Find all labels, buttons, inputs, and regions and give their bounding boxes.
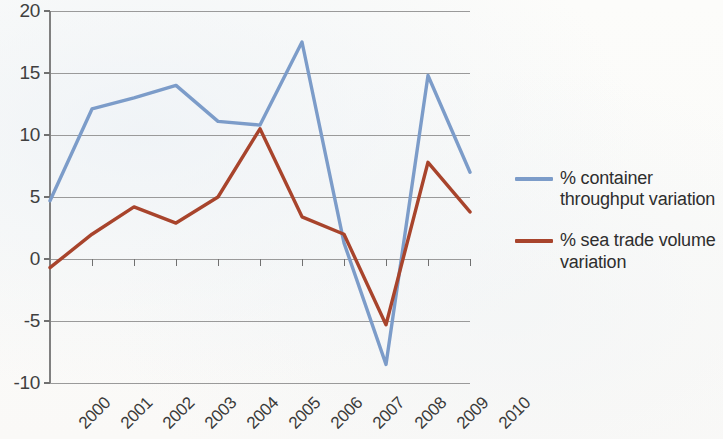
y-axis-tick-label: 15 [0,63,40,82]
legend-swatch-container-throughput [515,177,553,181]
line-chart: -10-505101520 20002001200220032004200520… [0,0,723,439]
y-axis-tick-label: -5 [0,311,40,330]
legend-swatch-sea-trade-volume [515,239,553,243]
y-axis-tick-label: 0 [0,249,40,268]
y-axis-tick-label: 20 [0,1,40,20]
legend-label-sea-trade-volume: % sea trade volume variation [560,230,720,272]
series-lines-group [50,42,470,364]
legend-item-sea-trade-volume: % sea trade volume variation [515,230,720,272]
x-axis-ticks-group [50,259,470,266]
gridlines-group [50,11,470,383]
y-axis-tick-label: -10 [0,373,40,392]
y-axis-tick-label: 10 [0,125,40,144]
legend-item-container-throughput: % container throughput variation [515,168,720,210]
series-line-container-throughput [50,42,470,364]
axes-group [44,11,50,383]
legend-label-container-throughput: % container throughput variation [560,168,720,210]
y-axis-tick-label: 5 [0,187,40,206]
chart-legend: % container throughput variation % sea t… [515,168,720,293]
